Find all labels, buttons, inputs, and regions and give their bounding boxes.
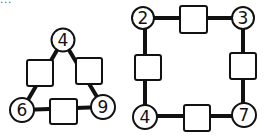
answer-box[interactable] bbox=[27, 60, 53, 86]
corner-value: 2 bbox=[138, 8, 149, 28]
corner-value: 3 bbox=[238, 8, 249, 28]
answer-box[interactable] bbox=[76, 58, 102, 84]
corner-value: 4 bbox=[58, 30, 69, 50]
puzzle-diagrams: 4 6 9 2 3 4 bbox=[0, 0, 266, 137]
corner-value: 7 bbox=[239, 105, 250, 125]
corner-node: 7 bbox=[232, 103, 256, 127]
square-puzzle: 2 3 4 7 bbox=[132, 6, 256, 131]
answer-box[interactable] bbox=[184, 105, 210, 131]
corner-node: 4 bbox=[133, 105, 157, 129]
corner-node: 3 bbox=[232, 7, 254, 29]
answer-box[interactable] bbox=[135, 55, 161, 80]
corner-node: 6 bbox=[10, 98, 34, 122]
corner-value: 6 bbox=[17, 100, 28, 120]
corner-value: 9 bbox=[98, 97, 109, 117]
answer-box[interactable] bbox=[180, 6, 207, 33]
corner-value: 4 bbox=[140, 107, 151, 127]
corner-node: 2 bbox=[132, 7, 154, 29]
corner-node: 4 bbox=[52, 29, 75, 52]
answer-box[interactable] bbox=[50, 99, 77, 124]
triangle-puzzle: 4 6 9 bbox=[10, 29, 115, 125]
corner-node: 9 bbox=[91, 95, 115, 119]
answer-box[interactable] bbox=[230, 53, 256, 79]
